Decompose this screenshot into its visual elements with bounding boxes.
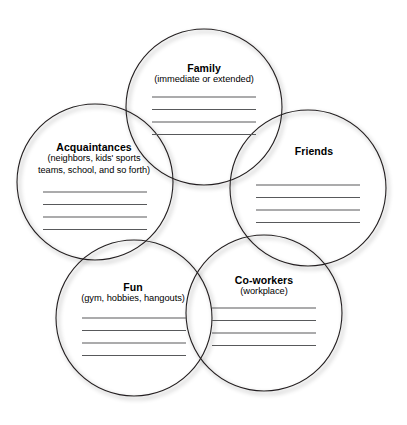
circle-outline-acquaintances [17,104,173,260]
write-lines-family [152,97,256,135]
circle-outline-family [126,29,282,185]
write-lines-acquaintances [43,192,147,230]
circle-outline-coworkers [186,235,342,391]
social-circles-diagram [0,0,407,425]
write-lines-friends [256,185,360,223]
write-lines-fun [82,318,186,356]
worksheet-canvas: Family (immediate or extended) Acquainta… [0,0,407,425]
circles-group [17,29,386,396]
write-lines-coworkers [212,308,316,346]
circle-outline-friends [230,110,386,266]
